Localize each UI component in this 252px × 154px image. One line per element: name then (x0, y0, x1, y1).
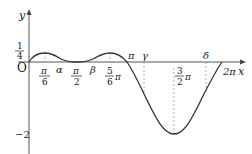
x-tick-pi: π (127, 50, 135, 61)
y-tick-quarter: 1 4 (15, 41, 24, 61)
x-tick-gamma: γ (142, 50, 148, 61)
x-tick-2pi: 2π (222, 66, 236, 77)
x-tick-alpha: α (56, 64, 63, 75)
x-tick-pi-over-2: π 2 (71, 66, 82, 87)
y-axis-label: y (18, 9, 26, 22)
svg-text:π: π (72, 66, 80, 76)
x-tick-pi-over-6: π 6 (39, 66, 50, 87)
svg-text:3: 3 (177, 66, 183, 76)
svg-text:2: 2 (74, 77, 80, 87)
x-tick-beta: β (89, 64, 96, 75)
svg-text:π: π (40, 66, 48, 76)
x-tick-delta: δ (203, 50, 209, 61)
svg-text:1: 1 (17, 41, 23, 51)
x-tick-3pi-over-2: 3 2 π (175, 66, 192, 87)
x-axis-arrow-icon (240, 60, 246, 65)
svg-text:4: 4 (17, 51, 23, 61)
y-axis-arrow-icon (27, 9, 32, 15)
svg-text:π: π (184, 72, 192, 82)
svg-text:6: 6 (42, 77, 48, 87)
function-graph: y x O 1 4 −2 π 6 α π 2 β 5 6 π π γ 3 2 π… (0, 0, 252, 154)
x-axis-label: x (238, 65, 245, 78)
svg-text:2: 2 (177, 77, 183, 87)
svg-text:6: 6 (107, 77, 113, 87)
origin-label: O (17, 61, 27, 75)
y-tick-minus-2: −2 (15, 129, 30, 140)
svg-text:π: π (114, 72, 122, 82)
svg-text:5: 5 (107, 66, 113, 76)
x-tick-5pi-over-6: 5 6 π (105, 66, 122, 87)
